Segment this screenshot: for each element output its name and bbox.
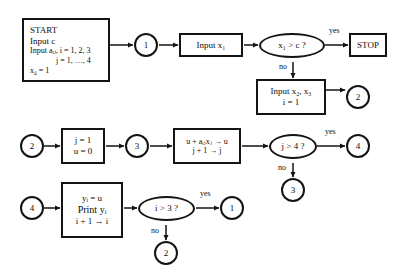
decision-j-gt-4: j > 4 ? — [269, 134, 317, 159]
decision-x1-gt-c: x₁ > c ? — [259, 33, 325, 58]
print-assign-label: yᵢ = u — [82, 193, 102, 204]
connector-4-row3: 4 — [20, 196, 44, 220]
decision-i-gt-3-label: i > 3 ? — [155, 203, 178, 214]
connector-2-row2: 2 — [20, 134, 44, 158]
edge-label-yes-conn4: yes — [325, 127, 336, 136]
start-x4: x₄ = 1 — [30, 66, 49, 75]
start-block: START Input c Input aᵢⱼ, i = 1, 2, 3 j =… — [22, 18, 110, 82]
edge-label-no-conn2: no — [151, 226, 159, 235]
input-x1-label: Input x₁ — [197, 40, 226, 51]
stop-label: STOP — [357, 40, 379, 51]
stop-block: STOP — [349, 33, 387, 57]
connector-3-below-label: 3 — [291, 185, 296, 195]
init-j-u-block: j = 1 u = 0 — [61, 128, 105, 164]
accumulate-sum-label: u + aᵢⱼxⱼ → u — [186, 137, 228, 146]
start-label: START — [30, 25, 57, 36]
edge-label-no-conn3: no — [278, 163, 286, 172]
start-input-a: Input aᵢⱼ, i = 1, 2, 3 — [30, 46, 91, 55]
edge-label-no-input23: no — [279, 62, 287, 71]
edge-label-yes-conn1: yes — [200, 189, 211, 198]
accumulate-block: u + aᵢⱼxⱼ → u j + 1 → j — [173, 128, 241, 164]
print-output-label: Print yᵢ — [78, 204, 107, 216]
print-incr-label: i + 1 → i — [76, 216, 109, 227]
connector-4-right: 4 — [346, 134, 370, 158]
print-block: yᵢ = u Print yᵢ i + 1 → i — [61, 182, 123, 238]
input-x1-block: Input x₁ — [179, 33, 243, 57]
connector-1-bottom: 1 — [220, 196, 244, 220]
connector-2-bottom-label: 2 — [164, 248, 169, 258]
connector-3-below: 3 — [281, 178, 305, 202]
start-range-j: j = 1, …, 4 — [30, 56, 91, 65]
connector-3-row2-label: 3 — [135, 141, 140, 151]
connector-1-top: 1 — [134, 33, 158, 57]
decision-j-gt-4-label: j > 4 ? — [282, 141, 305, 152]
init-u-label: u = 0 — [74, 146, 93, 157]
connector-2-bottom: 2 — [154, 241, 178, 265]
input-i-init-label: i = 1 — [283, 97, 300, 108]
connector-2-right-label: 2 — [356, 92, 361, 102]
connector-2-right: 2 — [346, 85, 370, 109]
connector-4-row3-label: 4 — [30, 203, 35, 213]
decision-i-gt-3: i > 3 ? — [138, 196, 195, 221]
start-input-c: Input c — [30, 36, 55, 47]
connector-3-row2: 3 — [125, 134, 149, 158]
connector-4-right-label: 4 — [356, 141, 361, 151]
connector-1-bottom-label: 1 — [230, 203, 235, 213]
accumulate-incr-label: j + 1 → j — [193, 146, 222, 155]
connector-2-row2-label: 2 — [30, 141, 35, 151]
flowchart-canvas: START Input c Input aᵢⱼ, i = 1, 2, 3 j =… — [0, 0, 397, 280]
init-j-label: j = 1 — [75, 135, 92, 146]
edge-label-yes-stop: yes — [329, 26, 340, 35]
input-x2-x3-label: Input x₂, x₃ — [270, 86, 311, 97]
decision-x1-gt-c-label: x₁ > c ? — [278, 40, 305, 51]
connector-1-top-label: 1 — [144, 40, 149, 50]
input-x2-x3-block: Input x₂, x₃ i = 1 — [256, 79, 326, 115]
